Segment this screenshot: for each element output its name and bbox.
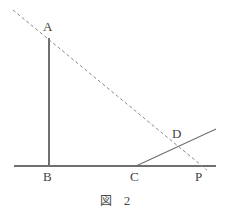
vertex-label-b: B [43, 170, 52, 183]
vertex-label-d: D [172, 127, 181, 140]
vertex-label-c: C [130, 170, 139, 183]
geometry-drawing [0, 0, 230, 221]
figure-caption: 図2 [0, 194, 230, 208]
vertex-label-p: P [195, 170, 202, 183]
vertex-label-a: A [43, 20, 52, 33]
figure-caption-label: 図 [100, 194, 112, 208]
figure-caption-number: 2 [124, 193, 131, 208]
figure-container: A B C D P 図2 [0, 0, 230, 221]
dashed-line-ap [13, 10, 207, 170]
